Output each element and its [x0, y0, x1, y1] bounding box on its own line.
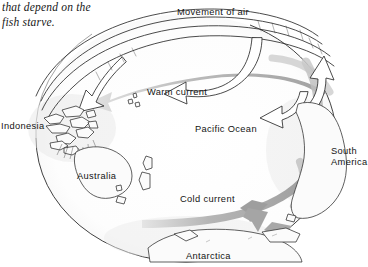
label-south-america-line-1: South: [331, 146, 368, 157]
label-pacific-ocean: Pacific Ocean: [195, 124, 257, 135]
label-south-america: South America: [331, 146, 368, 168]
label-movement-of-air: Movement of air: [177, 7, 249, 18]
label-antarctica: Antarctica: [186, 251, 231, 262]
label-australia: Australia: [77, 171, 116, 182]
label-indonesia: Indonesia: [1, 121, 44, 132]
label-warm-current: Warm current: [147, 87, 207, 98]
label-cold-current: Cold current: [180, 194, 235, 205]
label-south-america-line-2: America: [331, 157, 368, 168]
